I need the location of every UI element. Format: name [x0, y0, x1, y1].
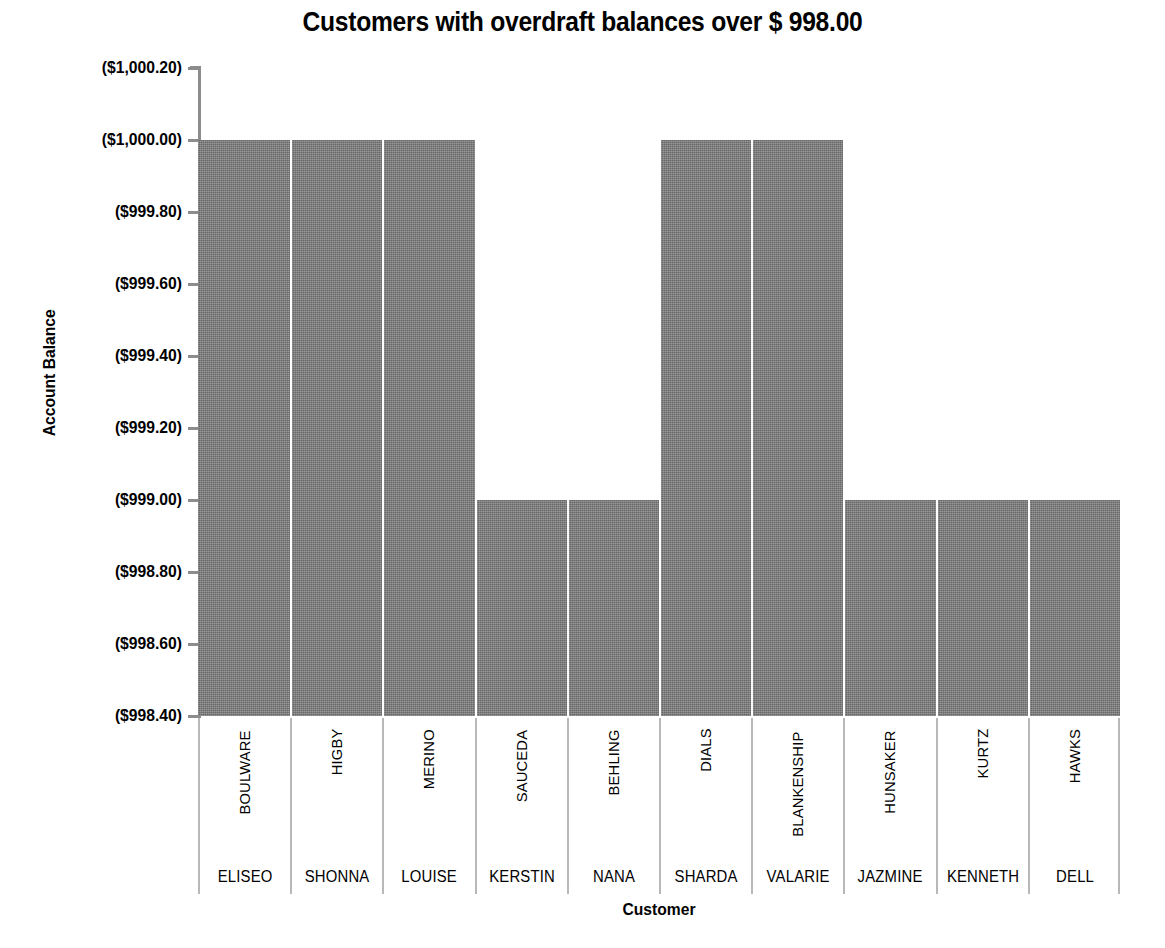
bar[interactable]	[1028, 500, 1120, 716]
y-axis-tick-label: ($998.60)	[30, 634, 182, 654]
category-first-name: LOUISE	[388, 868, 472, 886]
category-label-cell[interactable]: BOULWAREELISEO	[198, 718, 290, 894]
bar[interactable]	[936, 500, 1028, 716]
y-axis-tick-label-text: ($998.80)	[49, 562, 182, 581]
category-last-name-text: DIALS	[697, 728, 715, 772]
category-last-name-text: HUNSAKER	[881, 730, 899, 813]
chart-title: Customers with overdraft balances over $…	[70, 6, 1095, 38]
y-axis-tick-label-text: ($999.40)	[49, 346, 182, 365]
category-first-name: VALARIE	[756, 868, 840, 886]
category-last-name: KURTZ	[938, 718, 1028, 858]
category-last-name-text: MERINO	[420, 729, 438, 789]
bar[interactable]	[198, 140, 290, 716]
y-axis-tick-label-text: ($1,000.00)	[49, 130, 182, 149]
category-last-name-text: BOULWARE	[236, 730, 254, 814]
category-first-name: ELISEO	[203, 868, 287, 886]
category-last-name: HAWKS	[1030, 718, 1120, 858]
category-label-cell[interactable]: HAWKSDELL	[1028, 718, 1120, 894]
bar[interactable]	[751, 140, 843, 716]
category-first-name: KENNETH	[941, 868, 1025, 886]
category-last-name: BEHLING	[569, 718, 659, 858]
category-last-name-text: HAWKS	[1066, 729, 1084, 783]
category-label-cell[interactable]: HUNSAKERJAZMINE	[843, 718, 935, 894]
bar[interactable]	[475, 500, 567, 716]
category-grid-right-border	[1118, 718, 1120, 894]
category-label-grid: BOULWAREELISEOHIGBYSHONNAMERINOLOUISESAU…	[198, 718, 1120, 894]
y-axis-tick-label: ($999.00)	[30, 490, 182, 510]
category-last-name: MERINO	[384, 718, 474, 858]
y-axis-tick-label-text: ($999.20)	[49, 418, 182, 437]
category-last-name: BOULWARE	[200, 718, 290, 858]
category-first-name: DELL	[1033, 868, 1117, 886]
category-label-cell[interactable]: BLANKENSHIPVALARIE	[751, 718, 843, 894]
category-last-name-text: BLANKENSHIP	[789, 732, 807, 837]
category-last-name: HUNSAKER	[845, 718, 935, 858]
category-label-cell[interactable]: SAUCEDAKERSTIN	[475, 718, 567, 894]
y-axis-tick-label: ($999.80)	[30, 202, 182, 222]
bar-chart: Customers with overdraft balances over $…	[0, 0, 1165, 948]
bar[interactable]	[659, 140, 751, 716]
y-axis-tick-label: ($998.80)	[30, 562, 182, 582]
y-axis-tick-label: ($998.40)	[30, 706, 182, 726]
y-axis-tick-label-text: ($1,000.20)	[49, 58, 182, 77]
category-label-cell[interactable]: DIALSSHARDA	[659, 718, 751, 894]
y-axis-tick-label-text: ($999.60)	[49, 274, 182, 293]
category-last-name: BLANKENSHIP	[753, 718, 843, 858]
category-label-cell[interactable]: MERINOLOUISE	[382, 718, 474, 894]
bar[interactable]	[567, 500, 659, 716]
y-axis-tick-label-text: ($998.60)	[49, 634, 182, 653]
category-last-name: HIGBY	[292, 718, 382, 858]
y-axis-tick-label: ($999.20)	[30, 418, 182, 438]
category-first-name: SHARDA	[664, 868, 748, 886]
bar[interactable]	[290, 140, 382, 716]
category-last-name: DIALS	[661, 718, 751, 858]
y-axis-tick-label-text: ($999.80)	[49, 202, 182, 221]
y-axis-tick-label-text: ($998.40)	[49, 706, 182, 725]
category-first-name: SHONNA	[295, 868, 379, 886]
category-label-cell[interactable]: KURTZKENNETH	[936, 718, 1028, 894]
bar[interactable]	[843, 500, 936, 716]
category-last-name-text: BEHLING	[605, 729, 623, 795]
category-last-name: SAUCEDA	[477, 718, 567, 858]
y-axis-tick-label: ($1,000.20)	[30, 58, 182, 78]
category-first-name: NANA	[572, 868, 656, 886]
y-axis-tick-label-text: ($999.00)	[49, 490, 182, 509]
bar-series	[198, 68, 1120, 716]
category-label-cell[interactable]: HIGBYSHONNA	[290, 718, 382, 894]
category-first-name: JAZMINE	[848, 868, 932, 886]
bar[interactable]	[382, 140, 475, 716]
category-last-name-text: KURTZ	[974, 729, 992, 779]
category-last-name-text: SAUCEDA	[513, 730, 531, 803]
y-axis-tick-label: ($999.40)	[30, 346, 182, 366]
x-axis-title: Customer	[235, 900, 1083, 920]
y-axis-tick-label: ($999.60)	[30, 274, 182, 294]
category-last-name-text: HIGBY	[328, 728, 346, 775]
y-axis-tick-label: ($1,000.00)	[30, 130, 182, 150]
plot-area	[198, 68, 1120, 716]
category-label-cell[interactable]: BEHLINGNANA	[567, 718, 659, 894]
category-first-name: KERSTIN	[480, 868, 564, 886]
